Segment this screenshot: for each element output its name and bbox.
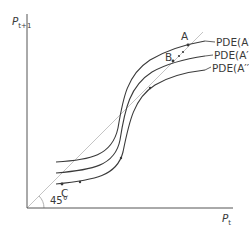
label-point-a: A — [181, 30, 189, 42]
x-axis-label-sub: t — [228, 219, 231, 227]
y-axis-label-sub: t+1 — [18, 22, 31, 30]
arrow-dot-5 — [79, 181, 81, 183]
x-axis-label: Pt — [222, 212, 231, 227]
pde-diagram: PDE(A) PDE(A′) PDE(A′′) A B C 45° Pt+1 P… — [0, 0, 249, 236]
label-pde-a: PDE(A) — [216, 36, 249, 48]
y-axis-label: Pt+1 — [12, 15, 31, 30]
leader-pde-a-double-prime — [205, 67, 211, 70]
leader-pde-a-prime — [205, 55, 213, 56]
leader-pde-a — [205, 41, 215, 42]
arrow-dot-4 — [120, 157, 122, 159]
point-a-marker — [187, 44, 190, 47]
arrow-dot-2 — [182, 51, 184, 53]
diagonal-45-line — [27, 32, 203, 208]
point-c-marker — [61, 183, 64, 186]
arrow-dot-3 — [149, 87, 151, 89]
curve-pde-a — [56, 41, 205, 162]
arrow-dot-1 — [178, 55, 180, 57]
label-pde-a-double-prime: PDE(A′′) — [212, 62, 249, 74]
label-point-b: B — [165, 51, 172, 63]
label-45-degrees: 45° — [50, 195, 68, 206]
angle-arc — [39, 196, 44, 208]
label-pde-a-prime: PDE(A′) — [214, 49, 249, 61]
curve-pde-a-double-prime — [56, 70, 205, 184]
